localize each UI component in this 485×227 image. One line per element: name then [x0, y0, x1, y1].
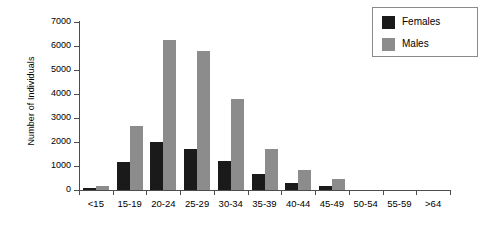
x-axis-tick: [248, 190, 249, 195]
bar-females-20-24: [150, 142, 163, 190]
x-axis-tick: [79, 190, 80, 195]
bar-group: [218, 22, 244, 190]
x-axis-tick: [281, 190, 282, 195]
x-axis-tick-label: 40-44: [281, 198, 315, 209]
bar-females-35-39: [252, 174, 265, 190]
y-axis-tick-labels: 01000200030004000500060007000: [33, 0, 71, 227]
x-axis-tick-label: <15: [79, 198, 113, 209]
x-axis-tick-label: 15-19: [113, 198, 147, 209]
x-axis-tick: [180, 190, 181, 195]
y-axis-tick-label: 3000: [37, 113, 71, 122]
x-axis-tick: [416, 190, 417, 195]
y-axis-tick-label: 6000: [37, 41, 71, 50]
bar-chart: Number of Individuals 010002000300040005…: [0, 0, 485, 227]
y-axis-tick: [74, 118, 80, 119]
bar-females-<15: [83, 188, 96, 190]
y-axis-tick-label: 1000: [37, 161, 71, 170]
x-axis-tick-label: >64: [416, 198, 450, 209]
bar-group: [252, 22, 278, 190]
x-axis-tick: [349, 190, 350, 195]
bar-group: [117, 22, 143, 190]
y-axis-tick-label: 7000: [37, 17, 71, 26]
bar-group: [184, 22, 210, 190]
y-axis-tick: [74, 166, 80, 167]
x-axis-tick-label: 55-59: [383, 198, 417, 209]
legend-item-males: Males: [382, 37, 429, 51]
bar-males-<15: [96, 186, 109, 190]
y-axis-tick: [74, 142, 80, 143]
bar-males-35-39: [265, 149, 278, 190]
x-axis-tick-label: 50-54: [349, 198, 383, 209]
y-axis-tick: [74, 94, 80, 95]
x-axis-tick: [113, 190, 114, 195]
x-axis-tick-labels: <1515-1920-2425-2930-3435-3940-4445-4950…: [79, 198, 451, 214]
bar-females-25-29: [184, 149, 197, 190]
y-axis-tick-label: 5000: [37, 65, 71, 74]
x-axis-tick: [214, 190, 215, 195]
bar-group: [285, 22, 311, 190]
x-axis-tick-label: 45-49: [315, 198, 349, 209]
y-axis-tick-label: 0: [37, 185, 71, 194]
x-axis-tick-label: 35-39: [248, 198, 282, 209]
bar-males-15-19: [130, 126, 143, 190]
x-axis-line: [79, 190, 451, 191]
y-axis-tick: [74, 22, 80, 23]
bar-males-40-44: [298, 170, 311, 190]
bar-males-30-34: [231, 99, 244, 190]
legend: Females Males: [372, 7, 478, 57]
x-axis-tick: [383, 190, 384, 195]
bar-females-45-49: [319, 186, 332, 190]
x-axis-tick: [450, 190, 451, 195]
bar-males-45-49: [332, 179, 345, 190]
x-axis-tick-label: 20-24: [146, 198, 180, 209]
x-axis-tick: [146, 190, 147, 195]
legend-item-females: Females: [382, 15, 440, 29]
x-axis-tick: [315, 190, 316, 195]
bar-females-40-44: [285, 183, 298, 190]
legend-swatch-males-icon: [382, 38, 395, 51]
y-axis-tick: [74, 70, 80, 71]
x-axis-tick-label: 30-34: [214, 198, 248, 209]
y-axis-tick-label: 2000: [37, 137, 71, 146]
bar-group: [319, 22, 345, 190]
bar-males-20-24: [163, 40, 176, 190]
legend-swatch-females-icon: [382, 16, 395, 29]
y-axis-tick-label: 4000: [37, 89, 71, 98]
bar-females-30-34: [218, 161, 231, 190]
y-axis-tick: [74, 46, 80, 47]
x-axis-tick-label: 25-29: [180, 198, 214, 209]
bar-group: [83, 22, 109, 190]
bar-males-25-29: [197, 51, 210, 190]
bar-group: [150, 22, 176, 190]
bar-females-15-19: [117, 162, 130, 190]
legend-label-males: Males: [402, 39, 429, 49]
legend-label-females: Females: [402, 17, 440, 27]
